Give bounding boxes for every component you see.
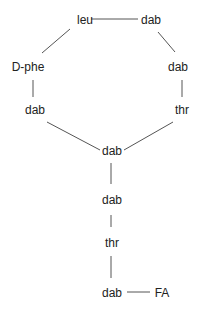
- node-dab-tail-2: dab: [102, 286, 122, 300]
- node-leu: leu: [77, 13, 93, 27]
- edge-dab1-dab2: [158, 32, 175, 52]
- edge-leu-dphe: [42, 29, 70, 53]
- node-thr-tail: thr: [105, 236, 119, 250]
- edge-thr1-dab4: [124, 122, 173, 150]
- node-dab-right: dab: [168, 60, 188, 74]
- node-thr-right: thr: [175, 103, 189, 117]
- node-dab-ring-bottom: dab: [102, 144, 122, 158]
- node-dab-top-right: dab: [141, 13, 161, 27]
- node-d-phe: D-phe: [12, 60, 45, 74]
- node-dab-tail-1: dab: [102, 193, 122, 207]
- edge-dab3-dab4: [47, 122, 100, 150]
- node-fa: FA: [155, 286, 170, 300]
- node-dab-left: dab: [25, 103, 45, 117]
